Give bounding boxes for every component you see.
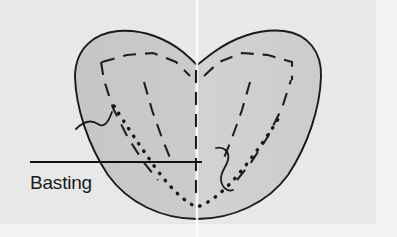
figure-canvas: Basting (0, 0, 397, 237)
sewing-diagram: Basting (0, 0, 397, 237)
basting-label: Basting (30, 172, 92, 193)
